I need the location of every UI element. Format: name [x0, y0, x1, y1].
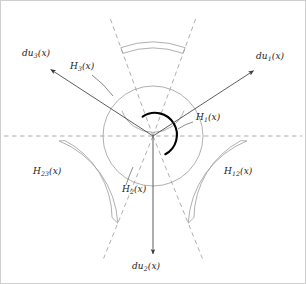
dashed-ray-upper-left	[109, 16, 153, 136]
lower-left-sector-cap-bottom	[112, 218, 118, 224]
label-H3: H3(x)	[70, 62, 94, 71]
label-H3-arg: (x)	[82, 61, 94, 71]
lower-right-sector-cap-bottom	[188, 218, 194, 224]
label-du2-base: du	[132, 261, 144, 271]
lower-left-sector-arc-inner	[65, 141, 112, 218]
label-H3-base: H	[70, 61, 78, 71]
label-H12-arg: (x)	[240, 166, 252, 176]
label-H12: H12(x)	[224, 167, 252, 176]
label-du3-base: du	[22, 48, 34, 58]
label-du3: du3(x)	[22, 49, 50, 58]
label-H23-subscript: 23	[41, 170, 49, 177]
label-H23-arg: (x)	[49, 166, 61, 176]
H1-leader-line	[178, 122, 193, 129]
lower-left-sector-arc-outer	[59, 141, 118, 223]
diagram-svg	[0, 0, 306, 284]
dashed-ray-upper-right	[153, 16, 197, 136]
top-sector-cap-right	[183, 48, 185, 54]
lower-right-sector-arc-outer	[188, 141, 247, 223]
lower-right-sector-arc-inner	[194, 141, 241, 218]
label-H1-base: H	[196, 112, 204, 122]
top-sector-cap-left	[121, 48, 123, 54]
H2-leader-line	[126, 167, 133, 185]
label-du3-arg: (x)	[38, 48, 50, 58]
label-H3-subscript: 3	[78, 65, 82, 72]
du3-arrow	[51, 70, 153, 137]
label-H2-subscript: 2	[130, 188, 134, 195]
label-H1-subscript: 1	[204, 116, 208, 123]
label-H12-subscript: 12	[232, 170, 240, 177]
H3-leader-line	[92, 75, 113, 96]
label-du1-base: du	[256, 51, 268, 61]
H1-bold-arc	[143, 113, 177, 154]
label-du2: du2(x)	[132, 262, 160, 271]
top-sector-arc-inner	[123, 48, 183, 53]
top-sector-arc-outer	[121, 42, 185, 48]
label-du2-subscript: 2	[144, 265, 148, 272]
du1-arrow	[153, 71, 254, 136]
dashed-ray-lower-left	[104, 136, 153, 258]
dashed-ray-lower-right	[153, 136, 202, 258]
label-du3-subscript: 3	[34, 52, 38, 59]
figure-canvas: du3(x) du1(x) du2(x) H3(x) H1(x) H2(x) H…	[0, 0, 306, 284]
label-du1-subscript: 1	[268, 55, 272, 62]
label-H23: H23(x)	[33, 167, 61, 176]
label-H2-base: H	[122, 184, 130, 194]
label-du1-arg: (x)	[272, 51, 284, 61]
label-H1: H1(x)	[196, 113, 220, 122]
label-du1: du1(x)	[256, 52, 284, 61]
label-H2: H2(x)	[122, 185, 146, 194]
label-H12-base: H	[224, 166, 232, 176]
label-du2-arg: (x)	[148, 261, 160, 271]
label-H2-arg: (x)	[134, 184, 146, 194]
label-H23-base: H	[33, 166, 41, 176]
label-H1-arg: (x)	[208, 112, 220, 122]
